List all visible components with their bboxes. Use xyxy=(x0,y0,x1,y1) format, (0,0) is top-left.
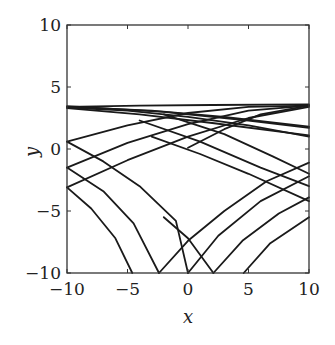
trajectory-curves xyxy=(67,104,309,273)
y-axis-label: y xyxy=(21,146,42,158)
y-axis-ticks: −10−50510 xyxy=(25,15,309,283)
y-tick-label: 0 xyxy=(50,139,61,159)
y-tick-label: −10 xyxy=(25,263,61,283)
x-tick-label: 10 xyxy=(298,279,320,299)
x-tick-label: 0 xyxy=(183,279,194,299)
trajectory-curve xyxy=(188,176,309,273)
trajectory-curve xyxy=(67,168,159,273)
y-tick-label: −5 xyxy=(36,201,61,221)
chart: −10−50510 −10−50510 x y xyxy=(0,0,335,345)
trajectory-curve xyxy=(244,217,309,273)
trajectory-curve xyxy=(67,142,188,273)
y-tick-label: 5 xyxy=(50,77,61,97)
trajectory-curve xyxy=(159,163,309,273)
x-axis-label: x xyxy=(183,306,193,327)
x-tick-label: −5 xyxy=(115,279,140,299)
y-tick-label: 10 xyxy=(39,15,61,35)
trajectory-curve xyxy=(152,137,309,202)
x-tick-label: 5 xyxy=(243,279,254,299)
trajectory-curve xyxy=(67,187,132,273)
